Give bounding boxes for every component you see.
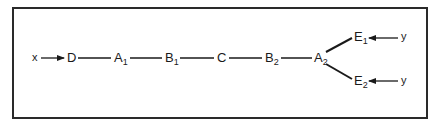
input-y1-label: y xyxy=(401,29,407,43)
node-e1-label: E xyxy=(354,29,363,44)
node-c-label: C xyxy=(217,50,226,65)
node-b1-subscript: 1 xyxy=(174,57,179,67)
node-d-label: D xyxy=(67,50,76,65)
node-e2-subscript: 2 xyxy=(363,80,368,90)
node-b1: B1 xyxy=(165,51,179,65)
node-e1-subscript: 1 xyxy=(363,36,368,46)
node-a1-label: A xyxy=(114,50,123,65)
node-e1: E1 xyxy=(354,30,368,44)
node-d: D xyxy=(67,51,76,65)
node-e2-label: E xyxy=(354,73,363,88)
node-a2: A2 xyxy=(314,51,328,65)
input-y2-label: y xyxy=(401,73,407,87)
node-b2-label: B xyxy=(265,50,274,65)
input-x-label: x xyxy=(32,50,38,64)
node-b2: B2 xyxy=(265,51,279,65)
node-a2-subscript: 2 xyxy=(323,57,328,67)
node-b1-label: B xyxy=(165,50,174,65)
node-a1-subscript: 1 xyxy=(123,57,128,67)
node-a1: A1 xyxy=(114,51,128,65)
edge-a2-to-e1 xyxy=(326,38,352,52)
edge-a2-to-e2 xyxy=(326,64,352,79)
node-a2-label: A xyxy=(314,50,323,65)
node-c: C xyxy=(217,51,226,65)
node-b2-subscript: 2 xyxy=(274,57,279,67)
node-e2: E2 xyxy=(354,74,368,88)
